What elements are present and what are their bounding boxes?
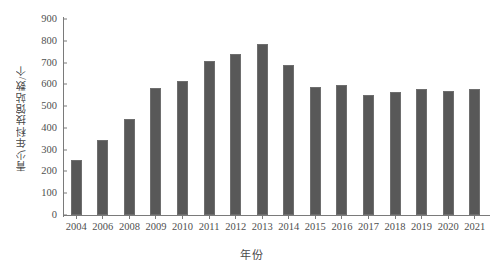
bar[interactable] <box>71 160 82 215</box>
bar[interactable] <box>124 119 135 215</box>
x-tick-label: 2013 <box>249 222 276 233</box>
bars-layer <box>63 19 488 215</box>
x-tick-mark <box>448 215 449 219</box>
x-axis-labels: 2004200620082009201020112012201320142015… <box>63 222 488 233</box>
bar[interactable] <box>416 89 427 215</box>
bar-slot <box>435 19 462 215</box>
x-tick-slot <box>382 215 409 220</box>
bar[interactable] <box>97 140 108 215</box>
x-tick-label: 2018 <box>382 222 409 233</box>
x-tick-mark <box>182 215 183 219</box>
y-tick-label: 500 <box>41 101 63 112</box>
bar-slot <box>90 19 117 215</box>
bar[interactable] <box>310 87 321 215</box>
x-tick-mark <box>102 215 103 219</box>
x-axis-title: 年份 <box>0 246 503 262</box>
bar[interactable] <box>443 91 454 215</box>
x-tick-mark <box>288 215 289 219</box>
bar-slot <box>382 19 409 215</box>
x-tick-slot <box>435 215 462 220</box>
x-tick-mark <box>395 215 396 219</box>
bar-slot <box>63 19 90 215</box>
x-tick-slot <box>143 215 170 220</box>
x-tick-slot <box>249 215 276 220</box>
bar-slot <box>222 19 249 215</box>
x-tick-mark <box>155 215 156 219</box>
bar[interactable] <box>230 54 241 215</box>
y-axis-title: 青少年科技馆站数/个 <box>14 48 32 188</box>
x-tick-slot <box>276 215 303 220</box>
bar[interactable] <box>177 81 188 215</box>
x-tick-slot <box>461 215 488 220</box>
x-tick-mark <box>368 215 369 219</box>
y-tick-label: 900 <box>41 14 63 25</box>
bar-slot <box>408 19 435 215</box>
bar[interactable] <box>204 61 215 215</box>
bar-slot <box>143 19 170 215</box>
x-tick-mark <box>315 215 316 219</box>
bar[interactable] <box>283 65 294 215</box>
y-tick-label: 700 <box>41 57 63 68</box>
x-tick-mark <box>129 215 130 219</box>
x-tick-slot <box>222 215 249 220</box>
bar[interactable] <box>150 88 161 215</box>
x-tick-label: 2008 <box>116 222 143 233</box>
x-tick-label: 2021 <box>461 222 488 233</box>
x-tick-label: 2004 <box>63 222 90 233</box>
bar[interactable] <box>363 95 374 215</box>
bar-slot <box>249 19 276 215</box>
bar[interactable] <box>336 85 347 215</box>
x-tick-label: 2014 <box>276 222 303 233</box>
x-tick-label: 2011 <box>196 222 223 233</box>
x-tick-label: 2006 <box>90 222 117 233</box>
x-tick-slot <box>196 215 223 220</box>
x-tick-mark <box>421 215 422 219</box>
y-tick-label: 400 <box>41 123 63 134</box>
bar-slot <box>276 19 303 215</box>
x-tick-mark <box>262 215 263 219</box>
y-tick-label: 0 <box>52 210 63 221</box>
x-tick-label: 2019 <box>408 222 435 233</box>
y-tick-label: 300 <box>41 144 63 155</box>
bar-slot <box>461 19 488 215</box>
x-tick-mark <box>341 215 342 219</box>
x-tick-slot <box>116 215 143 220</box>
bar-slot <box>329 19 356 215</box>
y-tick-label: 100 <box>41 188 63 199</box>
y-tick-label: 200 <box>41 166 63 177</box>
x-tick-slot <box>90 215 117 220</box>
bar[interactable] <box>257 44 268 215</box>
x-tick-mark <box>76 215 77 219</box>
x-tick-label: 2010 <box>169 222 196 233</box>
y-tick-label: 800 <box>41 36 63 47</box>
bar-slot <box>196 19 223 215</box>
x-tick-label: 2017 <box>355 222 382 233</box>
bar-slot <box>169 19 196 215</box>
x-tick-mark <box>209 215 210 219</box>
bar[interactable] <box>469 89 480 215</box>
plot-area: 0100200300400500600700800900 <box>63 19 488 215</box>
x-tick-label: 2016 <box>329 222 356 233</box>
x-tick-slot <box>329 215 356 220</box>
x-axis-ticks <box>63 215 488 220</box>
bar[interactable] <box>390 92 401 215</box>
x-tick-mark <box>235 215 236 219</box>
bar-slot <box>302 19 329 215</box>
x-tick-label: 2012 <box>222 222 249 233</box>
x-tick-slot <box>355 215 382 220</box>
x-tick-label: 2020 <box>435 222 462 233</box>
x-tick-label: 2009 <box>143 222 170 233</box>
x-tick-slot <box>302 215 329 220</box>
bar-slot <box>355 19 382 215</box>
x-tick-label: 2015 <box>302 222 329 233</box>
x-tick-slot <box>408 215 435 220</box>
bar-slot <box>116 19 143 215</box>
x-tick-slot <box>169 215 196 220</box>
y-tick-label: 600 <box>41 79 63 90</box>
bar-chart: 青少年科技馆站数/个 0100200300400500600700800900 … <box>0 0 503 274</box>
x-tick-slot <box>63 215 90 220</box>
x-tick-mark <box>474 215 475 219</box>
